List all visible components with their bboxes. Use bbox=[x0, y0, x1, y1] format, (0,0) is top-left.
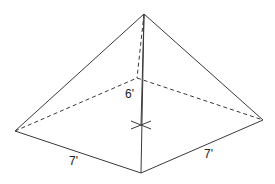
hidden-edge-back-left bbox=[15, 78, 137, 131]
edge-apex-right bbox=[144, 14, 263, 120]
base-right-length-label: 7' bbox=[204, 147, 213, 161]
base-left-length-label: 7' bbox=[69, 154, 78, 168]
base-edge-left bbox=[15, 131, 141, 173]
pyramid-diagram: 6' 7' 7' bbox=[0, 0, 275, 184]
hidden-edge-back-right bbox=[137, 78, 263, 120]
base-edge-right bbox=[141, 120, 263, 173]
height-label: 6' bbox=[125, 87, 134, 101]
edge-apex-left bbox=[15, 14, 144, 131]
